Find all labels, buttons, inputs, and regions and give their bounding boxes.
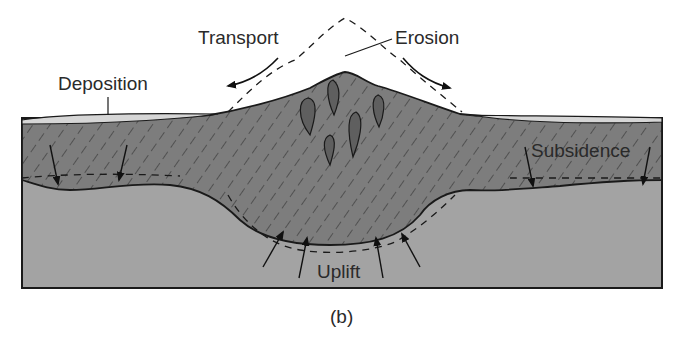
cross-section-svg [0,0,682,340]
uplift-label: Uplift [317,262,360,281]
deposition-label: Deposition [58,74,148,93]
transport-arrow-left [228,58,278,86]
figure-caption: (b) [330,307,353,326]
geology-diagram: Transport Erosion Deposition Subsidence … [0,0,682,340]
transport-arrow-right [403,58,450,88]
subsidence-label: Subsidence [531,141,630,160]
erosion-label: Erosion [395,28,459,47]
transport-label: Transport [198,28,279,47]
